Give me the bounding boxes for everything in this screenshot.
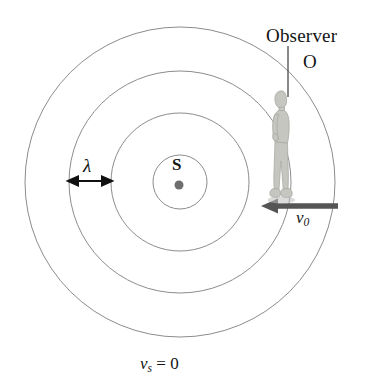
- wavelength-double-arrow: [68, 177, 112, 186]
- observer-velocity-symbol: v: [296, 208, 304, 227]
- observer-velocity-label: v0: [296, 209, 309, 229]
- person-shoe-back: [270, 189, 281, 198]
- person-legs: [274, 142, 289, 190]
- source-velocity-label: vs = 0: [140, 355, 179, 375]
- source-dot: [175, 181, 184, 190]
- wavefront-diagram: [0, 0, 383, 391]
- observer-person-sketch: [268, 88, 302, 206]
- source-point-label: S: [172, 156, 181, 173]
- source-velocity-symbol: v: [140, 354, 148, 373]
- observer-label: Observer: [266, 26, 337, 45]
- wavelength-label: λ: [83, 156, 91, 175]
- person-shadow: [268, 196, 295, 203]
- person-hand: [273, 134, 278, 141]
- person-shoe-front: [281, 189, 293, 198]
- observer-point-label: O: [303, 52, 317, 71]
- person-head: [275, 91, 287, 108]
- observer-velocity-subscript: 0: [304, 216, 310, 229]
- doppler-effect-figure: Observer O S λ v0 vs = 0: [0, 0, 383, 391]
- source-velocity-equals: = 0: [152, 354, 179, 373]
